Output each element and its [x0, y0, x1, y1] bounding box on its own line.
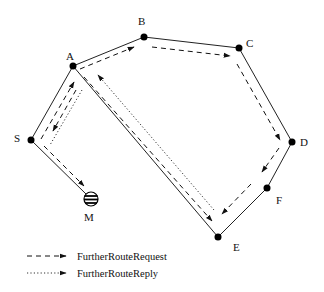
node-D[interactable]: [289, 139, 296, 146]
node-S[interactable]: [28, 137, 35, 144]
request-arrow-S-A: [41, 82, 74, 139]
node-F[interactable]: [264, 185, 271, 192]
label-E: E: [233, 241, 240, 253]
request-arrow-C-D: [237, 64, 280, 140]
nodes: [28, 34, 296, 241]
node-A[interactable]: [70, 63, 77, 70]
link-S-M: [31, 140, 86, 194]
request-arrows: [41, 47, 280, 221]
label-M: M: [84, 211, 94, 223]
node-B[interactable]: [141, 34, 148, 41]
link-A-E: [73, 66, 218, 237]
reply-arrows: [50, 75, 214, 210]
node-C[interactable]: [236, 45, 243, 52]
route-diagram: A B C D E F S M FurtherRouteRequest Furt…: [0, 0, 324, 292]
link-S-A: [31, 66, 73, 140]
node-labels: A B C D E F S M: [14, 15, 308, 253]
reply-arrow-E-A: [98, 75, 214, 210]
link-A-B: [73, 37, 144, 66]
legend: FurtherRouteRequest FurtherRouteReply: [27, 251, 167, 279]
request-arrow-A-E: [84, 77, 212, 221]
request-arrow-F-E: [222, 184, 251, 214]
legend-reply-label: FurtherRouteReply: [77, 268, 159, 279]
node-M[interactable]: [84, 192, 98, 206]
link-D-F: [267, 142, 292, 188]
link-B-C: [144, 37, 239, 48]
request-arrow-A-B: [80, 47, 134, 69]
label-D: D: [300, 136, 308, 148]
label-B: B: [138, 15, 145, 27]
label-S: S: [14, 132, 20, 144]
legend-request-label: FurtherRouteRequest: [77, 251, 167, 262]
request-arrow-D-F: [262, 148, 279, 172]
label-A: A: [66, 50, 74, 62]
request-arrow-B-C: [152, 47, 230, 56]
link-C-D: [239, 48, 292, 142]
label-C: C: [246, 37, 253, 49]
node-E[interactable]: [215, 234, 222, 241]
label-F: F: [276, 194, 282, 206]
link-F-E: [218, 188, 267, 237]
request-arrow-S-M: [44, 146, 84, 186]
